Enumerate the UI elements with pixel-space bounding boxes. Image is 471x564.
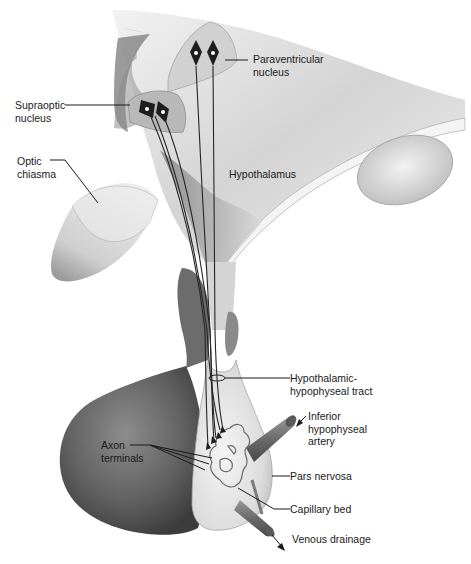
label-line: Optic bbox=[17, 155, 56, 168]
label-hypothalamic-hypophyseal-tract: Hypothalamic- hypophyseal tract bbox=[290, 372, 372, 397]
label-line: Inferior bbox=[308, 410, 367, 423]
label-line: chiasma bbox=[17, 168, 56, 181]
optic-chiasma bbox=[51, 183, 158, 281]
label-capillary-bed: Capillary bed bbox=[290, 503, 351, 516]
label-line: Pars nervosa bbox=[290, 470, 352, 483]
label-venous-drainage: Venous drainage bbox=[292, 533, 371, 546]
label-line: Supraoptic bbox=[15, 99, 65, 112]
label-line: nucleus bbox=[253, 66, 324, 79]
label-line: Paraventricular bbox=[253, 53, 324, 66]
label-optic-chiasma: Optic chiasma bbox=[17, 155, 56, 180]
label-line: Axon bbox=[101, 439, 144, 452]
label-line: nucleus bbox=[15, 112, 65, 125]
hypothalamus-region bbox=[112, 10, 465, 264]
label-line: Venous drainage bbox=[292, 533, 371, 546]
label-hypothalamus: Hypothalamus bbox=[229, 168, 296, 181]
pars-tuberalis bbox=[178, 268, 210, 368]
label-pars-nervosa: Pars nervosa bbox=[290, 470, 352, 483]
label-line: hypophyseal tract bbox=[290, 385, 372, 398]
label-line: hypophyseal bbox=[308, 423, 367, 436]
label-line: Capillary bed bbox=[290, 503, 351, 516]
label-line: artery bbox=[308, 435, 367, 448]
label-supraoptic-nucleus: Supraoptic nucleus bbox=[15, 99, 65, 124]
label-line: terminals bbox=[101, 452, 144, 465]
label-line: Hypothalamic- bbox=[290, 372, 372, 385]
label-inferior-hypophyseal-artery: Inferior hypophyseal artery bbox=[308, 410, 367, 448]
label-axon-terminals: Axon terminals bbox=[101, 439, 144, 464]
anatomy-diagram bbox=[0, 0, 471, 564]
venous-arrowhead bbox=[277, 543, 285, 551]
label-paraventricular-nucleus: Paraventricular nucleus bbox=[253, 53, 324, 78]
label-line: Hypothalamus bbox=[229, 168, 296, 181]
